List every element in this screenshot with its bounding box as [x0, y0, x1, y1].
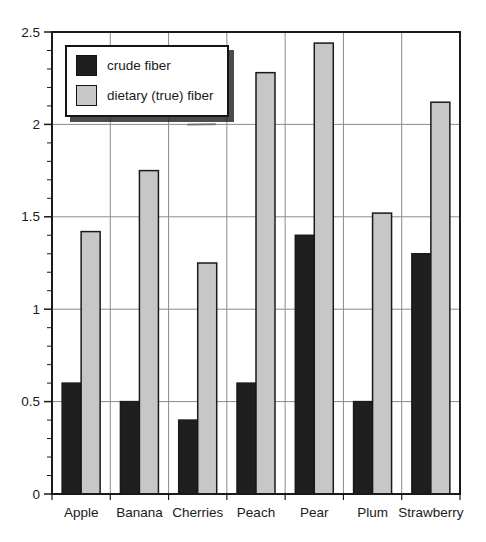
- y-tick-label: 1.5: [21, 209, 40, 224]
- legend-row-crude: crude fiber: [76, 55, 214, 76]
- y-tick-label: 2: [32, 117, 40, 132]
- y-tick-label: 1: [32, 302, 40, 317]
- x-label-strawberry: Strawberry: [398, 505, 464, 520]
- bar-dietary-cherries: [198, 263, 217, 494]
- bar-crude-peach: [237, 383, 256, 494]
- x-label-banana: Banana: [116, 505, 163, 520]
- legend-label-crude: crude fiber: [107, 58, 171, 73]
- y-tick-label: 0.5: [21, 394, 40, 409]
- x-label-peach: Peach: [237, 505, 275, 520]
- legend-row-dietary: dietary (true) fiber: [76, 85, 214, 106]
- bar-crude-strawberry: [412, 254, 431, 494]
- x-label-plum: Plum: [357, 505, 388, 520]
- bar-crude-plum: [354, 402, 373, 494]
- crude-fiber-swatch: [76, 55, 97, 76]
- bar-crude-banana: [120, 402, 139, 494]
- scan-artifact: [188, 124, 215, 125]
- bar-dietary-strawberry: [431, 102, 450, 494]
- bar-dietary-peach: [256, 73, 275, 494]
- bar-dietary-plum: [373, 213, 392, 494]
- legend: crude fiber dietary (true) fiber: [65, 45, 229, 117]
- legend-label-dietary: dietary (true) fiber: [107, 88, 214, 103]
- bar-dietary-pear: [314, 43, 333, 494]
- x-label-apple: Apple: [64, 505, 99, 520]
- bar-dietary-apple: [81, 232, 100, 494]
- bar-crude-apple: [62, 383, 81, 494]
- x-label-pear: Pear: [300, 505, 329, 520]
- bar-crude-pear: [295, 235, 314, 494]
- x-label-cherries: Cherries: [172, 505, 223, 520]
- y-tick-label: 2.5: [21, 25, 40, 40]
- fiber-bar-chart-figure: 00.511.522.5AppleBananaCherriesPeachPear…: [0, 0, 486, 542]
- bar-crude-cherries: [179, 420, 198, 494]
- dietary-fiber-swatch: [76, 85, 97, 106]
- bar-dietary-banana: [139, 171, 158, 494]
- y-tick-label: 0: [32, 487, 40, 502]
